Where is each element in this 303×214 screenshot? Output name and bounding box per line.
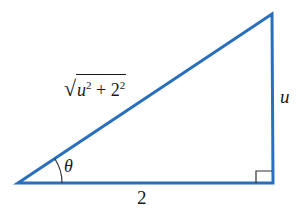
adjacent-side-label: 2 (137, 187, 147, 209)
right-angle-marker (256, 171, 272, 183)
radicand: u2 + 22 (76, 74, 126, 100)
angle-arc (55, 159, 62, 183)
radical-sign: √ (64, 76, 76, 101)
triangle-outline (18, 14, 273, 183)
triangle-diagram (0, 0, 303, 214)
angle-label: θ (64, 156, 73, 177)
opposite-side-label: u (280, 86, 290, 108)
hypotenuse-label: √u2 + 22 (64, 74, 126, 102)
